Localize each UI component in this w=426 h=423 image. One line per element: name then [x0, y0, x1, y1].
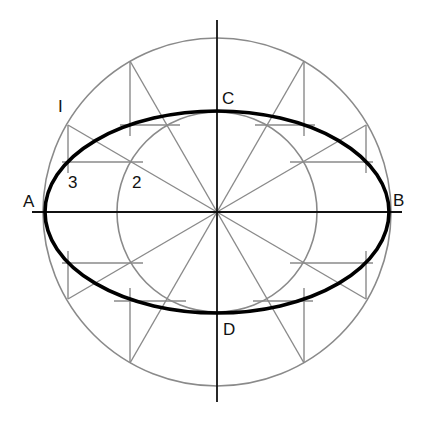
label-d: D	[223, 320, 235, 339]
label-three: 3	[68, 173, 77, 192]
label-two: 2	[132, 173, 141, 192]
label-one: I	[58, 97, 63, 116]
label-b: B	[393, 191, 404, 210]
label-c: C	[222, 89, 234, 108]
label-a: A	[23, 192, 35, 211]
ellipse-construction-diagram: A B C D I 3 2	[0, 0, 426, 423]
